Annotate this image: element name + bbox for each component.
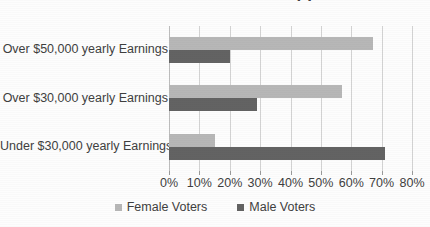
x-axis-label-40%: 40% [278,176,303,190]
bar-female-voters-0 [169,37,373,50]
bar-group [169,74,412,122]
chart-legend: Female VotersMale Voters [0,200,430,214]
legend-label: Female Voters [127,200,208,214]
tickmark-60 [351,171,352,175]
tickmark-0 [169,171,170,175]
x-axis-labels: 0%10%20%30%40%50%60%70%80% [0,176,430,192]
bar-male-voters-0 [169,50,230,63]
x-axis-label-10%: 10% [187,176,212,190]
x-axis-label-60%: 60% [339,176,364,190]
x-axis-label-70%: 70% [369,176,394,190]
tickmark-50 [321,171,322,175]
category-label-0: Over $50,000 yearly Earnings [0,42,168,56]
bar-male-voters-2 [169,147,385,160]
x-axis-label-80%: 80% [399,176,424,190]
tickmark-10 [199,171,200,175]
bar-group [169,26,412,74]
category-axis-labels: Over $50,000 yearly EarningsOver $30,000… [0,26,168,171]
tickmark-80 [412,171,413,175]
gridline-80 [412,26,413,171]
x-axis-label-0%: 0% [160,176,178,190]
bar-female-voters-1 [169,85,342,98]
category-label-1: Over $30,000 yearly Earnings [0,91,168,105]
tickmark-40 [291,171,292,175]
legend-item-male-voters[interactable]: Male Voters [237,200,315,214]
bar-male-voters-1 [169,98,257,111]
tickmark-20 [230,171,231,175]
legend-item-female-voters[interactable]: Female Voters [115,200,208,214]
voter-support-bar-chart: Senator Perkins Voter Support Over $50,0… [0,0,430,227]
bar-female-voters-2 [169,134,215,147]
female-legend-swatch [115,204,122,211]
tickmark-70 [382,171,383,175]
male-legend-swatch [237,204,244,211]
x-axis-label-20%: 20% [217,176,242,190]
legend-label: Male Voters [249,200,315,214]
x-axis-label-50%: 50% [308,176,333,190]
bar-group [169,123,412,171]
tickmark-30 [260,171,261,175]
chart-title: Senator Perkins Voter Support [0,0,430,3]
category-label-2: Under $30,000 yearly Earnings [0,139,168,153]
plot-area [169,26,412,171]
x-axis-label-30%: 30% [248,176,273,190]
